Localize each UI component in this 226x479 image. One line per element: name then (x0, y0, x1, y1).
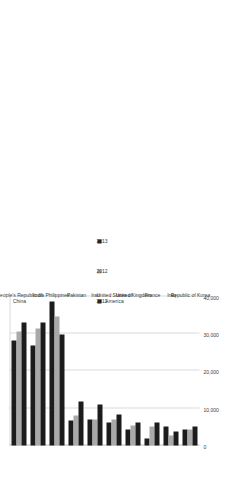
bar (16, 331, 21, 445)
bar-group (9, 296, 28, 445)
bar (130, 425, 135, 445)
bar (78, 401, 83, 445)
bar (21, 322, 26, 445)
bar (135, 422, 140, 445)
bar (35, 328, 40, 445)
bar (40, 322, 45, 445)
bar (92, 419, 97, 445)
bar-group (47, 296, 66, 445)
bar (59, 334, 64, 445)
bar (68, 420, 73, 445)
bar (154, 422, 159, 445)
bar (106, 422, 111, 445)
tick-label: 0 (203, 443, 206, 449)
bar (187, 429, 192, 445)
legend-label: 2013 (96, 237, 107, 243)
bar (192, 426, 197, 445)
bar-group (28, 296, 47, 445)
bar (149, 426, 154, 445)
bar (11, 340, 16, 445)
bar (30, 345, 35, 445)
bar (87, 419, 92, 445)
bar (168, 435, 173, 445)
bar-chart-figure: 010,00020,00030,00040,000 People's Repub… (0, 0, 226, 479)
legend-label: 2012 (96, 267, 107, 273)
bar (125, 429, 130, 445)
legend-item[interactable]: 2013 (96, 226, 102, 243)
bar (73, 415, 78, 445)
bar (182, 429, 187, 445)
bar-group (180, 296, 199, 445)
tick-label: 30,000 (203, 331, 218, 337)
bar-group (85, 296, 104, 445)
bar (111, 419, 116, 445)
category-label: Republic of Korea (167, 292, 213, 298)
bar (173, 431, 178, 445)
chart-legend: 201120122013 (96, 226, 102, 303)
bar-group (104, 296, 123, 445)
bar-group (123, 296, 142, 445)
bar-group (66, 296, 85, 445)
bar (97, 404, 102, 445)
tick-label: 10,000 (203, 406, 218, 412)
legend-item[interactable]: 2012 (96, 256, 102, 273)
tick-label: 20,000 (203, 369, 218, 375)
bar (49, 301, 54, 445)
bar (116, 414, 121, 445)
bar-group (142, 296, 161, 445)
bar (163, 426, 168, 445)
bar (144, 438, 149, 445)
bar-group (161, 296, 180, 445)
legend-label: 2011 (96, 297, 107, 303)
legend-item[interactable]: 2011 (96, 286, 102, 303)
chart-screenshot: 010,00020,00030,00040,000 People's Repub… (0, 0, 226, 479)
bar (54, 316, 59, 445)
plot-area (9, 296, 199, 445)
